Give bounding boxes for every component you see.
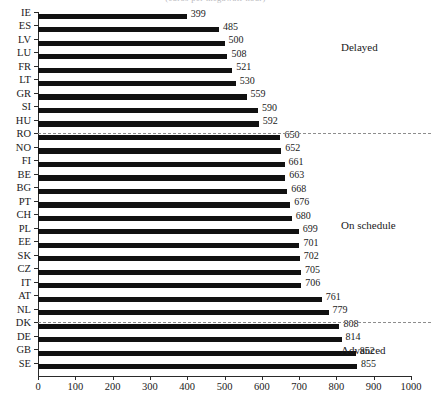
category-label: LU xyxy=(17,47,31,59)
bar xyxy=(38,229,299,234)
bar xyxy=(38,283,301,288)
bar xyxy=(38,189,287,194)
bar-value-label: 652 xyxy=(285,142,300,153)
category-label: DK xyxy=(16,317,31,329)
bar-row: PT676 xyxy=(38,201,411,214)
category-label: CZ xyxy=(18,263,31,275)
bar-value-label: 530 xyxy=(240,75,255,86)
bar xyxy=(38,324,339,329)
bar xyxy=(38,297,322,302)
bar-value-label: 814 xyxy=(346,331,361,342)
bar-value-label: 521 xyxy=(236,61,251,72)
x-axis-tick-label: 500 xyxy=(217,381,233,393)
bar xyxy=(38,94,247,99)
category-label: FI xyxy=(22,155,31,167)
x-axis-tick xyxy=(38,376,39,380)
bar-value-label: 592 xyxy=(263,115,278,126)
category-label: IE xyxy=(21,7,31,19)
bar-row: CZ705 xyxy=(38,268,411,281)
bar xyxy=(38,243,299,248)
bar-value-label: 705 xyxy=(305,264,320,275)
bar-row: HU592 xyxy=(38,120,411,133)
bar-value-label: 699 xyxy=(303,223,318,234)
x-axis-tick-label: 600 xyxy=(254,381,270,393)
x-axis-tick-label: 800 xyxy=(329,381,345,393)
category-label: LV xyxy=(18,34,31,46)
bar-value-label: 399 xyxy=(191,8,206,19)
bar xyxy=(38,14,187,19)
bar-row: BG668 xyxy=(38,187,411,200)
x-axis-tick-label: 0 xyxy=(35,381,40,393)
bar-value-label: 590 xyxy=(262,102,277,113)
bar-row: FI661 xyxy=(38,160,411,173)
category-label: ES xyxy=(19,20,31,32)
x-axis-tick-label: 400 xyxy=(179,381,195,393)
bar-value-label: 500 xyxy=(229,34,244,45)
bar xyxy=(38,121,259,126)
bar-value-label: 702 xyxy=(304,250,319,261)
category-label: RO xyxy=(16,128,31,140)
bar-value-label: 508 xyxy=(231,48,246,59)
bar xyxy=(38,81,236,86)
bar xyxy=(38,364,357,369)
bar-row: SK702 xyxy=(38,255,411,268)
category-label: FR xyxy=(18,61,31,73)
bar-row: AT761 xyxy=(38,295,411,308)
category-label: NO xyxy=(16,142,31,154)
x-axis-tick xyxy=(374,376,375,380)
bar xyxy=(38,41,225,46)
delayed-onschedule-divider xyxy=(38,133,431,134)
category-label: AT xyxy=(18,290,31,302)
bar-value-label: 779 xyxy=(333,304,348,315)
bar xyxy=(38,27,219,32)
bar-row: NO652 xyxy=(38,147,411,160)
x-axis-tick-label: 300 xyxy=(142,381,158,393)
x-axis-tick-label: 700 xyxy=(291,381,307,393)
category-label: SK xyxy=(18,250,31,262)
category-label: GB xyxy=(16,344,31,356)
x-axis-tick xyxy=(299,376,300,380)
x-axis-tick-label: 900 xyxy=(366,381,382,393)
category-label: CH xyxy=(16,209,31,221)
bar-value-label: 485 xyxy=(223,21,238,32)
bar-row: SI590 xyxy=(38,106,411,119)
category-label: NL xyxy=(17,304,31,316)
x-axis-tick xyxy=(150,376,151,380)
bar-value-label: 650 xyxy=(284,129,299,140)
category-label: DE xyxy=(17,331,31,343)
x-axis-tick xyxy=(113,376,114,380)
category-label: LT xyxy=(19,74,31,86)
x-axis-tick xyxy=(411,376,412,380)
bar-value-label: 855 xyxy=(361,358,376,369)
bar xyxy=(38,54,227,59)
category-label: PT xyxy=(19,196,31,208)
group-annotation-delayed: Delayed xyxy=(341,41,378,54)
bar-value-label: 559 xyxy=(251,88,266,99)
bar-row: BE663 xyxy=(38,174,411,187)
bar-value-label: 668 xyxy=(291,183,306,194)
x-axis-tick xyxy=(75,376,76,380)
bar xyxy=(38,351,356,356)
bar-value-label: 808 xyxy=(343,318,358,329)
bar-value-label: 680 xyxy=(296,210,311,221)
bar-value-label: 661 xyxy=(289,156,304,167)
group-annotation-on-schedule: On schedule xyxy=(341,219,396,232)
bar xyxy=(38,135,280,140)
bar xyxy=(38,162,285,167)
x-axis-tick-label: 1000 xyxy=(401,381,422,393)
bar-row: SE855 xyxy=(38,363,411,376)
horizontal-bar-chart: IE399ES485LV500LU508FR521LT530GR559SI590… xyxy=(0,0,431,411)
category-label: GR xyxy=(16,88,31,100)
category-label: BG xyxy=(16,182,31,194)
bar-value-label: 676 xyxy=(294,196,309,207)
bar-row: GR559 xyxy=(38,93,411,106)
bar-row: RO650 xyxy=(38,133,411,146)
bar-row: LU508 xyxy=(38,52,411,65)
x-axis-tick-label: 200 xyxy=(105,381,121,393)
category-label: EE xyxy=(18,236,31,248)
x-axis-tick xyxy=(336,376,337,380)
bar xyxy=(38,202,290,207)
bar xyxy=(38,310,329,315)
bar xyxy=(38,270,301,275)
bar-value-label: 663 xyxy=(289,169,304,180)
